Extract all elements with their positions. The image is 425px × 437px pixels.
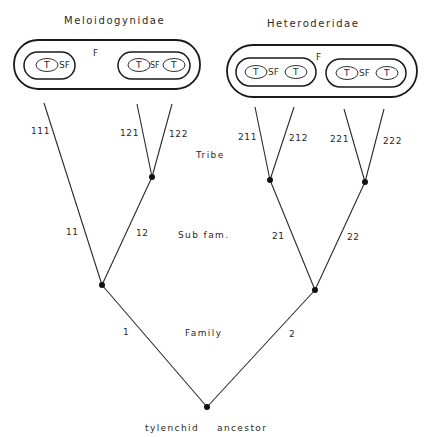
subfamily-node-22 xyxy=(362,179,368,185)
family-box-label: F xyxy=(93,48,98,58)
rank-label-subfamily: Sub fam. xyxy=(178,230,230,240)
tribe-label: T xyxy=(170,60,177,70)
subfamily-box: T SF xyxy=(24,52,75,79)
edge-212 xyxy=(270,107,294,180)
edge-2 xyxy=(207,290,315,407)
tribe-label: T xyxy=(43,60,50,70)
branch-label-1: 1 xyxy=(123,327,129,337)
phylogenetic-tree-diagram: Meloidogynidae Heteroderidae F T SF T SF… xyxy=(0,0,425,437)
branch-label-122: 122 xyxy=(169,129,188,139)
branch-label-12: 12 xyxy=(136,228,149,238)
subfamily-box: T SF T xyxy=(326,59,406,87)
branch-label-22: 22 xyxy=(347,232,360,242)
edge-222 xyxy=(365,109,384,182)
rank-label-family: Family xyxy=(185,328,222,338)
family-box-heteroderidae: F T SF T T SF T xyxy=(227,45,417,97)
family-title-heteroderidae: Heteroderidae xyxy=(267,18,360,29)
edge-1 xyxy=(102,285,207,407)
tribe-label: T xyxy=(252,67,259,77)
branch-label-211: 211 xyxy=(238,132,257,142)
root-label-tylenchid: tylenchid xyxy=(145,423,199,433)
branch-label-222: 222 xyxy=(383,136,402,146)
family-title-meloidogynidae: Meloidogynidae xyxy=(64,15,165,26)
root-label-ancestor: ancestor xyxy=(217,423,267,433)
edge-221 xyxy=(344,109,365,182)
edge-122 xyxy=(152,104,172,177)
subfamily-label: SF xyxy=(359,68,370,78)
root-node xyxy=(204,404,210,410)
subfamily-label: SF xyxy=(268,67,279,77)
tribe-label: T xyxy=(343,68,350,78)
tribe-label: T xyxy=(292,67,299,77)
subfamily-label: SF xyxy=(150,61,160,70)
family-box-meloidogynidae: F T SF T SF T xyxy=(14,40,200,89)
branch-label-11: 11 xyxy=(66,227,79,237)
family-node-1 xyxy=(99,282,105,288)
family-box-label: F xyxy=(316,52,321,62)
branch-label-111: 111 xyxy=(31,126,50,136)
subfamily-node-12 xyxy=(149,174,155,180)
tribe-label: T xyxy=(383,68,390,78)
branch-label-212: 212 xyxy=(289,133,308,143)
tribe-label: T xyxy=(135,60,142,70)
edge-121 xyxy=(137,104,152,177)
tree-edges xyxy=(44,103,384,407)
family-node-2 xyxy=(312,287,318,293)
rank-label-tribe: Tribe xyxy=(195,150,225,160)
edge-211 xyxy=(255,107,270,180)
subfamily-node-21 xyxy=(267,177,273,183)
tree-nodes xyxy=(99,174,368,410)
branch-label-2: 2 xyxy=(289,329,295,339)
branch-label-121: 121 xyxy=(120,128,139,138)
subfamily-label: SF xyxy=(59,60,70,70)
subfamily-box: T SF T xyxy=(236,58,316,86)
subfamily-box: T SF T xyxy=(118,52,190,79)
edge-11-111 xyxy=(44,103,102,285)
branch-label-21: 21 xyxy=(272,231,285,241)
branch-label-221: 221 xyxy=(330,134,349,144)
